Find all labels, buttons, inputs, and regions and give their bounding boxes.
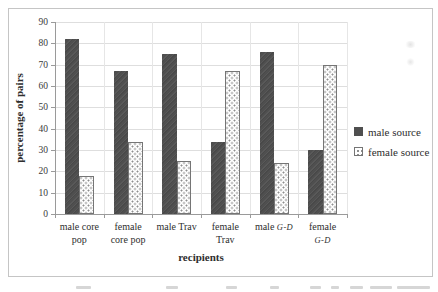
cutoff-caption-fragments	[0, 284, 438, 292]
bar-male-source-female-core-pop	[114, 71, 129, 214]
bar-male-source-female-Trav	[211, 142, 226, 215]
bar-male-source-male-core-pop	[65, 39, 80, 214]
category-label-female-G-D: femaleG-D	[293, 221, 352, 246]
legend: male source female source	[354, 125, 429, 165]
bar-female-source-female-G-D	[323, 65, 338, 214]
y-tick	[51, 129, 55, 130]
gridline	[201, 22, 202, 214]
male-source-swatch-icon	[354, 127, 363, 136]
x-tick	[55, 214, 56, 218]
y-tick-label: 10	[20, 188, 48, 198]
x-tick	[201, 214, 202, 218]
x-tick	[298, 214, 299, 218]
gridline	[298, 22, 299, 214]
x-axis-title: recipients	[141, 251, 261, 263]
y-tick-label: 90	[20, 17, 48, 27]
bar-female-source-male-Trav	[177, 161, 192, 214]
x-tick	[347, 214, 348, 218]
y-tick	[51, 150, 55, 151]
bar-male-source-male-Trav	[162, 54, 177, 214]
chart-figure: 0102030405060708090male corepopfemalecor…	[0, 0, 438, 292]
bar-female-source-female-core-pop	[128, 142, 143, 215]
x-tick	[104, 214, 105, 218]
female-source-swatch-icon	[354, 147, 363, 156]
bar-male-source-male-G-D	[260, 52, 275, 214]
gridline	[250, 22, 251, 214]
y-tick	[51, 22, 55, 23]
y-tick	[51, 43, 55, 44]
legend-label-male-source: male source	[368, 126, 421, 138]
y-axis-line	[55, 22, 56, 215]
y-tick	[51, 193, 55, 194]
legend-item-male-source: male source	[354, 125, 429, 138]
legend-label-female-source: female source	[368, 146, 429, 158]
y-tick	[51, 86, 55, 87]
scan-artifact	[406, 58, 415, 66]
bar-male-source-female-G-D	[308, 150, 323, 214]
scan-artifact	[404, 41, 417, 48]
y-tick	[51, 171, 55, 172]
legend-item-female-source: female source	[354, 145, 429, 158]
y-tick	[51, 107, 55, 108]
gridline	[347, 22, 348, 214]
bar-female-source-female-Trav	[225, 71, 240, 214]
gridline	[152, 22, 153, 214]
y-tick-label: 80	[20, 38, 48, 48]
y-tick-label: 0	[20, 209, 48, 219]
bar-female-source-male-core-pop	[79, 176, 94, 214]
gridline	[104, 22, 105, 214]
bar-female-source-male-G-D	[274, 163, 289, 214]
y-tick	[51, 65, 55, 66]
x-tick	[152, 214, 153, 218]
x-tick	[250, 214, 251, 218]
y-axis-title: percentage of pairs	[13, 63, 27, 173]
